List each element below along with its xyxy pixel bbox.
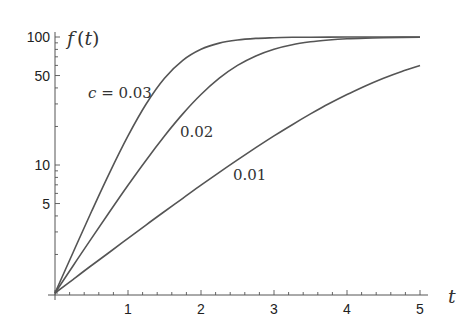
series-label-c003: c = 0.03 xyxy=(88,84,152,102)
curve-series-1 xyxy=(55,37,420,293)
series-label-c002: 0.02 xyxy=(180,123,213,141)
y-tick-label-10: 10 xyxy=(34,157,50,173)
y-tick-label-5: 5 xyxy=(42,196,50,212)
x-tick-label-3: 3 xyxy=(270,301,278,317)
x-axis-label: t xyxy=(448,285,456,307)
series-label-c003-value: = 0.03 xyxy=(96,84,152,102)
x-tick-label-4: 4 xyxy=(343,301,351,317)
x-tick-label-5: 5 xyxy=(416,301,424,317)
y-label-paren-open: ( xyxy=(77,27,84,49)
x-tick-label-2: 2 xyxy=(197,301,205,317)
y-axis-label: f(t) xyxy=(65,27,100,49)
y-label-f: f xyxy=(65,27,77,49)
y-tick-label-50: 50 xyxy=(34,68,50,84)
y-label-paren-close: ) xyxy=(92,27,99,49)
y-tick-label-100: 100 xyxy=(27,29,51,45)
logistic-growth-chart: 100 50 10 5 1 2 3 4 5 f(t) t c = 0.03 0.… xyxy=(0,0,475,333)
chart-container: 100 50 10 5 1 2 3 4 5 f(t) t c = 0.03 0.… xyxy=(0,0,475,333)
curves xyxy=(55,37,420,293)
series-label-c001: 0.01 xyxy=(233,166,266,184)
x-tick-label-1: 1 xyxy=(124,301,132,317)
